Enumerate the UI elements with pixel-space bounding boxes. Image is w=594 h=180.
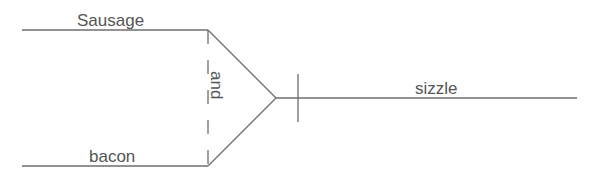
conjunction-word: and	[207, 71, 226, 99]
branch-bottom	[208, 98, 276, 166]
subject-word-2: bacon	[89, 147, 135, 166]
sentence-diagram: Sausage bacon and sizzle	[0, 0, 594, 180]
predicate-word: sizzle	[415, 79, 458, 98]
subject-word-1: Sausage	[77, 11, 144, 30]
